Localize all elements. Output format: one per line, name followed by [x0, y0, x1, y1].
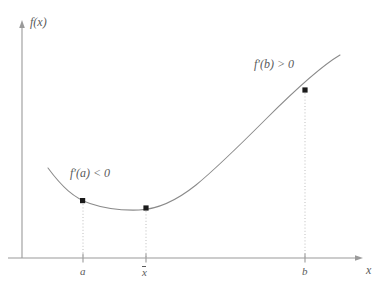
tick-label-xbar: x	[142, 266, 147, 278]
y-axis-label: f(x)	[30, 16, 47, 28]
x-axis-arrowhead	[355, 255, 363, 261]
tick-label-b: b	[302, 266, 308, 277]
function-plot-figure: f(x) x f′(a) < 0 f′(b) > 0 a x b	[0, 0, 384, 294]
tick-label-a: a	[80, 266, 86, 277]
function-curve	[48, 55, 340, 210]
data-point-xbar	[143, 205, 148, 210]
data-point-a	[80, 198, 85, 203]
plot-canvas	[0, 0, 384, 294]
x-axis-label: x	[366, 264, 371, 276]
annotation-derivative-b: f′(b) > 0	[254, 58, 294, 70]
y-axis-arrowhead	[19, 20, 25, 28]
annotation-derivative-a: f′(a) < 0	[70, 167, 110, 179]
tick-label-xbar-text: x	[142, 266, 147, 278]
data-point-b	[302, 87, 307, 92]
